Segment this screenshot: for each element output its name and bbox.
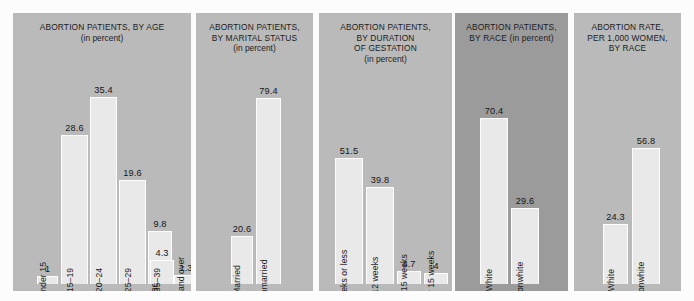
chart-panel-3: ABORTION PATIENTS,BY DURATIONOF GESTATIO… [319, 13, 452, 291]
bar-category-label: 15–19 [65, 268, 75, 291]
bar [61, 135, 88, 284]
bar-value-label: 70.4 [485, 106, 503, 116]
bar-value-label: 9.8 [153, 219, 166, 229]
bar-value-label: 4.3 [155, 248, 168, 258]
infographic-sheet: ABORTION PATIENTS, BY AGE(in percent)1Un… [0, 0, 694, 301]
bar-category-label: 9–12 weeks [370, 257, 380, 291]
chart-panel-5: ABORTION RATE,PER 1,000 WOMEN,BY RACE24.… [574, 13, 681, 291]
bar-category-label: 40 and over [176, 257, 186, 291]
bar-category-label: 13–15 weeks [399, 254, 409, 291]
plot-area: 70.4White29.6Nonwhite [455, 13, 568, 284]
plot-area: 20.6Married79.4Unmarried [196, 13, 313, 284]
plot-area: 51.58 weeks or less39.89–12 weeks4.713–1… [319, 13, 452, 284]
bar-value-label: 79.4 [259, 86, 277, 96]
plot-area: 24.3White56.8Nonwhite [574, 13, 681, 284]
bar-category-label: White [606, 269, 616, 291]
bar-value-label: 19.6 [123, 168, 141, 178]
bar-category-label: Married [232, 265, 242, 291]
bar-category-label: Nonwhite [636, 262, 646, 291]
bar-category-label: Unmarried [259, 259, 269, 291]
chart-panel-4: ABORTION PATIENTS,BY RACE (in percent)70… [455, 13, 568, 291]
bar-value-label: 39.8 [371, 175, 389, 185]
bar [480, 118, 508, 284]
bar-category-label: Nonwhite [515, 262, 525, 291]
bar [90, 97, 117, 284]
bar-value-label: 20.6 [233, 224, 251, 234]
bar-category-label: Over 15 weeks [426, 251, 436, 291]
bar-category-label: Under 15 [38, 262, 48, 291]
bar-value-label: 29.6 [516, 196, 534, 206]
bar-value-label: 28.6 [65, 123, 83, 133]
bar-category-label: 20–24 [94, 268, 104, 291]
bar-value-label: 24.3 [606, 212, 624, 222]
plot-area: 1Under 1528.615–1935.420–2419.625–299.83… [13, 13, 191, 284]
bar-category-label: White [484, 269, 494, 291]
bar [256, 98, 281, 284]
bar-category-label: 8 weeks or less [339, 250, 349, 291]
bar-value-label: 51.5 [340, 146, 358, 156]
bar-category-label: 25–29 [123, 268, 133, 291]
chart-panel-1: ABORTION PATIENTS, BY AGE(in percent)1Un… [13, 13, 191, 291]
chart-panel-2: ABORTION PATIENTS,BY MARITAL STATUS(in p… [196, 13, 313, 291]
bar-value-label: 35.4 [94, 85, 112, 95]
bar-category-label: 35–39 [152, 268, 162, 291]
bar-value-label: 56.8 [637, 136, 655, 146]
